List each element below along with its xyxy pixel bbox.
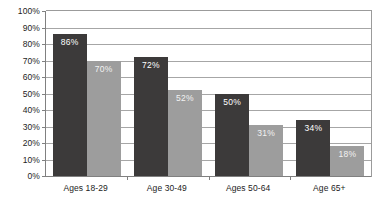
bar: 52% [168,90,202,176]
y-axis-tick [42,176,46,177]
bar: 18% [330,146,364,176]
bar-value-label: 70% [87,65,121,74]
bar-value-label: 31% [249,129,283,138]
x-axis-tick [290,176,291,180]
bar: 50% [215,94,249,177]
bar: 72% [134,57,168,176]
y-axis-tick [42,143,46,144]
y-axis-tick [42,110,46,111]
y-axis-tick-label: 50% [0,89,40,98]
plot-top-border [46,10,371,11]
y-axis-tick-label: 80% [0,40,40,49]
bar-value-label: 50% [215,98,249,107]
bar-value-label: 72% [134,61,168,70]
bar-value-label: 52% [168,94,202,103]
bar: 34% [296,120,330,176]
y-axis-tick-labels: 100%90%80%70%60%50%40%30%20%10%0% [0,0,40,205]
plot-right-border [371,10,372,177]
x-axis-category-label: Ages 18-29 [45,184,126,193]
bar-value-label: 34% [296,124,330,133]
y-axis-tick [42,61,46,62]
y-axis-tick [42,11,46,12]
bar: 31% [249,125,283,176]
y-axis-tick-label: 0% [0,172,40,181]
x-axis-tick [209,176,210,180]
y-axis-tick-label: 40% [0,106,40,115]
x-axis-category-label: Ages 50-64 [208,184,289,193]
y-axis-tick [42,77,46,78]
y-axis-tick [42,94,46,95]
gridline [46,44,371,45]
y-axis-tick [42,28,46,29]
y-axis-tick-label: 30% [0,122,40,131]
x-axis-category-label: Age 65+ [289,184,370,193]
plot-area: 86%70%72%52%50%31%34%18% [45,11,371,177]
bar-chart: 100%90%80%70%60%50%40%30%20%10%0% 86%70%… [0,0,381,205]
bar: 86% [53,34,87,176]
y-axis-tick-label: 100% [0,7,40,16]
y-axis-tick-label: 70% [0,56,40,65]
x-axis-tick [127,176,128,180]
bar-value-label: 86% [53,38,87,47]
gridline [46,28,371,29]
y-axis-tick-label: 90% [0,23,40,32]
y-axis-tick-label: 10% [0,155,40,164]
bar: 70% [87,61,121,177]
y-axis-tick [42,44,46,45]
x-axis-category-label: Age 30-49 [126,184,207,193]
y-axis-tick [42,127,46,128]
y-axis-tick [42,160,46,161]
y-axis-tick-label: 60% [0,73,40,82]
y-axis-tick-label: 20% [0,139,40,148]
bar-value-label: 18% [330,150,364,159]
